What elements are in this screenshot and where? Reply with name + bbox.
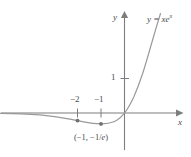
minimum-point-annotation: (−1, −1/e) — [74, 133, 108, 142]
minimum-point-close: ) — [105, 132, 108, 142]
y-axis-arrowhead — [121, 11, 128, 18]
x-tick-label-minus-one: −1 — [94, 95, 104, 104]
x-axis-arrowhead — [176, 109, 184, 116]
function-plot-figure: y x y = xex 1 −2 −1 (−1, −1/e) — [0, 0, 191, 157]
marked-point-minimum — [99, 122, 103, 126]
y-axis-label: y — [113, 13, 117, 22]
minimum-point-open: (−1, −1/ — [74, 132, 102, 142]
curve-equation-exponent: x — [170, 13, 173, 19]
x-axis-label: x — [178, 118, 182, 127]
function-curve — [1, 14, 161, 124]
curve-equation-base: y = xe — [147, 14, 170, 24]
curve-equation-label: y = xex — [147, 13, 172, 24]
x-tick-label-minus-two: −2 — [70, 95, 80, 104]
y-tick-label-one: 1 — [111, 73, 116, 82]
marked-point-minus-two — [76, 119, 80, 123]
